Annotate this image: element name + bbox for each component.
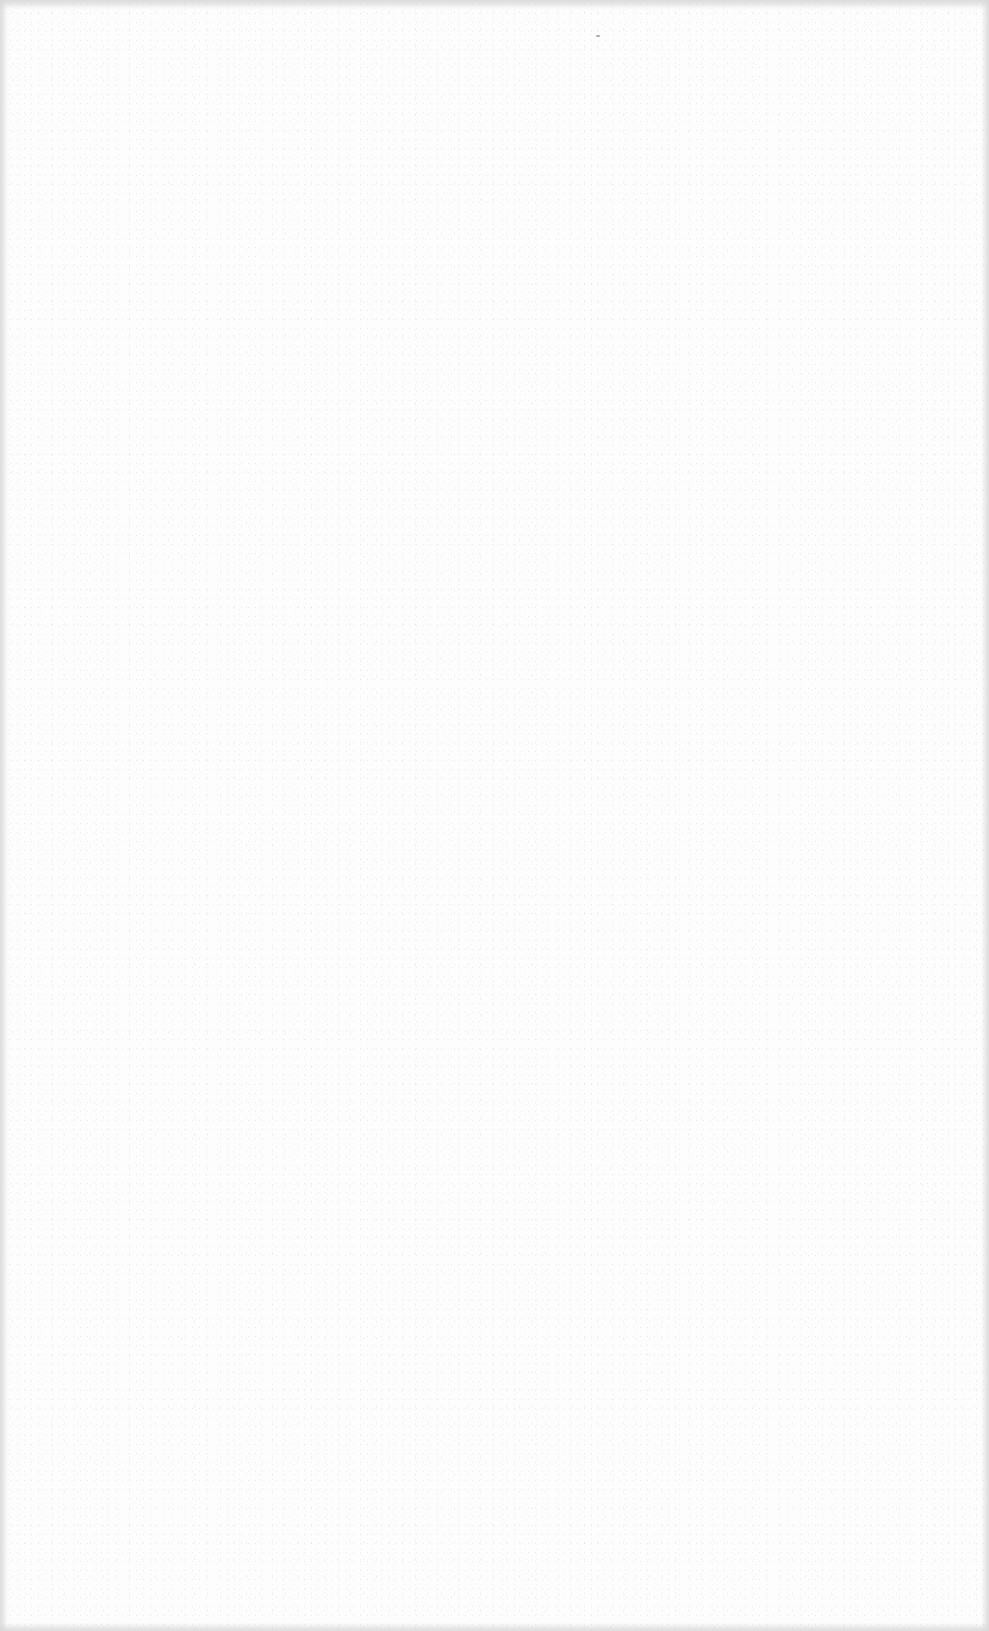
page-edge-bottom	[0, 1623, 989, 1631]
blank-page	[0, 0, 989, 1631]
dust-speck	[596, 35, 600, 37]
page-edge-left	[0, 0, 8, 1631]
page-edge-top	[0, 0, 989, 10]
page-edge-right	[981, 0, 989, 1631]
paper-texture	[0, 0, 989, 1631]
